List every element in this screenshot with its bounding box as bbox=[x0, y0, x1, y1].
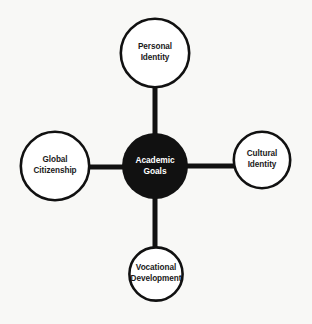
node-circle-vocational-development[interactable] bbox=[129, 247, 182, 300]
diagram-canvas: Personal Identity Global Citizenship Cul… bbox=[0, 0, 312, 324]
node-circle-personal-identity[interactable] bbox=[121, 19, 189, 87]
hub-and-spoke-diagram bbox=[0, 0, 312, 324]
hub-circle-academic-goals[interactable] bbox=[122, 133, 188, 199]
node-circle-global-citizenship[interactable] bbox=[21, 132, 89, 200]
node-circle-cultural-identity[interactable] bbox=[234, 132, 290, 188]
